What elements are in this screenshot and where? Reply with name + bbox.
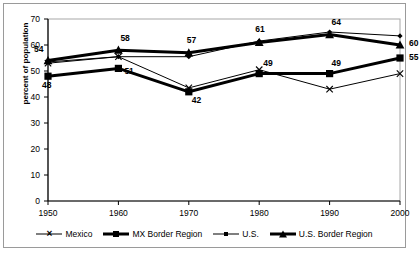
legend-label: U.S. Border Region — [299, 229, 373, 239]
legend-item-3[interactable]: U.S. Border Region — [270, 229, 373, 239]
x-tick-label: 1970 — [169, 208, 209, 218]
data-point-label: 42 — [192, 95, 201, 105]
data-point-label: 64 — [332, 17, 341, 27]
data-point-label: 48 — [42, 80, 51, 90]
data-point-label: 54 — [34, 44, 43, 54]
line-chart: percent of population 010203040506070 19… — [4, 4, 407, 249]
square-marker — [396, 54, 403, 61]
legend-label: Mexico — [65, 229, 92, 239]
y-tick-label: 20 — [18, 144, 40, 154]
data-point-label: 57 — [187, 35, 196, 45]
data-point-label: 61 — [255, 24, 264, 34]
square-marker — [103, 229, 129, 239]
x-marker: × — [36, 229, 62, 239]
legend-item-0[interactable]: ×Mexico — [36, 229, 92, 239]
y-axis-title: percent of population — [21, 9, 30, 119]
data-point-label: 49 — [263, 58, 272, 68]
legend-item-1[interactable]: MX Border Region — [103, 229, 202, 239]
data-point-label: 51 — [124, 66, 133, 76]
legend-label: MX Border Region — [132, 229, 202, 239]
x-tick-label: 1950 — [28, 208, 68, 218]
chart-frame: percent of population 010203040506070 19… — [3, 3, 406, 248]
chart-legend: ×MexicoMX Border RegionU.S.U.S. Border R… — [4, 229, 405, 239]
data-point-label: 55 — [409, 52, 418, 62]
square-marker — [115, 65, 122, 72]
y-tick-label: 30 — [18, 118, 40, 128]
x-tick-label: 1990 — [310, 208, 350, 218]
y-tick-label: 10 — [18, 170, 40, 180]
square-marker — [44, 73, 51, 80]
legend-label: U.S. — [242, 229, 259, 239]
y-tick-label: 40 — [18, 92, 40, 102]
x-tick-label: 1960 — [98, 208, 138, 218]
x-tick-label: 1980 — [239, 208, 279, 218]
data-point-label: 60 — [409, 38, 418, 48]
data-point-label: 49 — [332, 58, 341, 68]
diamond-marker — [213, 229, 239, 239]
y-tick-label: 0 — [18, 196, 40, 206]
x-tick-label: 2000 — [380, 208, 420, 218]
data-point-label: 58 — [120, 33, 129, 43]
square-marker — [256, 70, 263, 77]
y-tick-label: 70 — [18, 14, 40, 24]
triangle-marker — [270, 229, 296, 239]
y-tick-label: 50 — [18, 66, 40, 76]
legend-item-2[interactable]: U.S. — [213, 229, 259, 239]
square-marker — [326, 70, 333, 77]
